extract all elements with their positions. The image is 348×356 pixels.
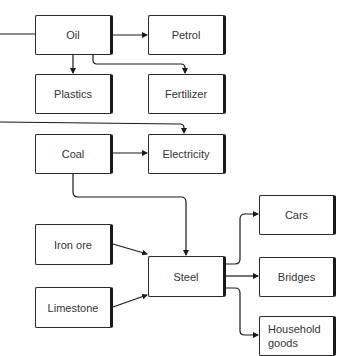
node-label: Coal xyxy=(62,147,85,161)
edge-offscreen-electricity xyxy=(0,122,184,133)
edge-ironore-steel xyxy=(113,244,147,254)
node-label-line2: goods xyxy=(268,336,298,350)
node-household-goods: Household goods xyxy=(259,316,336,356)
node-label: Cars xyxy=(285,208,308,222)
node-label: Steel xyxy=(173,270,198,284)
node-label: Plastics xyxy=(54,87,92,101)
node-steel: Steel xyxy=(148,256,226,297)
node-oil: Oil xyxy=(35,15,113,55)
node-iron-ore: Iron ore xyxy=(35,224,113,265)
node-label: Electricity xyxy=(162,147,209,161)
node-label-line1: Household xyxy=(268,322,321,336)
node-fertilizer: Fertilizer xyxy=(148,74,226,114)
node-limestone: Limestone xyxy=(35,287,113,328)
node-electricity: Electricity xyxy=(148,134,226,174)
node-cars: Cars xyxy=(259,195,336,235)
node-plastics: Plastics xyxy=(35,74,113,114)
node-bridges: Bridges xyxy=(259,257,336,297)
node-petrol: Petrol xyxy=(148,15,226,55)
edge-steel-cars xyxy=(226,214,258,264)
node-label: Bridges xyxy=(278,270,315,284)
node-label: Fertilizer xyxy=(165,87,207,101)
edge-oil-fertilizer xyxy=(93,54,185,73)
node-label: Limestone xyxy=(48,301,99,315)
node-coal: Coal xyxy=(35,134,113,174)
edge-steel-household xyxy=(226,288,258,335)
edge-limestone-steel xyxy=(113,295,147,307)
node-label: Iron ore xyxy=(54,238,92,252)
node-label: Oil xyxy=(66,28,79,42)
node-label: Petrol xyxy=(172,28,201,42)
